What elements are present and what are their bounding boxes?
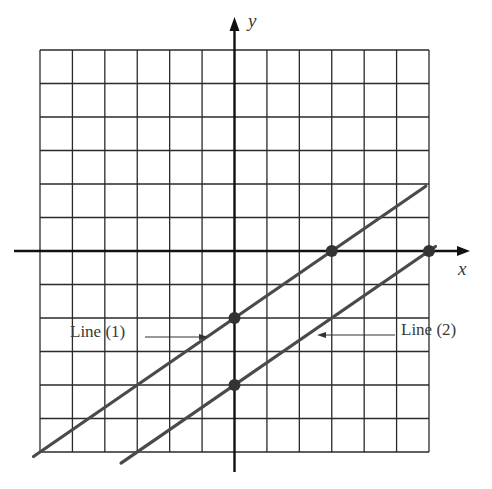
coordinate-plane bbox=[0, 0, 492, 489]
line-2-label: Line (2) bbox=[401, 320, 456, 340]
arrowhead-icon bbox=[317, 332, 326, 338]
x-axis-label: x bbox=[458, 258, 466, 280]
point-marker bbox=[423, 245, 435, 257]
point-marker bbox=[326, 245, 338, 257]
y-axis-arrow-icon bbox=[230, 17, 240, 31]
line-2 bbox=[121, 247, 435, 464]
x-axis-arrow-icon bbox=[457, 246, 470, 256]
point-marker bbox=[229, 379, 241, 391]
line-1-label: Line (1) bbox=[70, 322, 125, 342]
y-axis-label: y bbox=[248, 10, 256, 32]
annotation-arrows bbox=[145, 332, 395, 340]
axes bbox=[14, 17, 470, 472]
point-marker bbox=[229, 312, 241, 324]
